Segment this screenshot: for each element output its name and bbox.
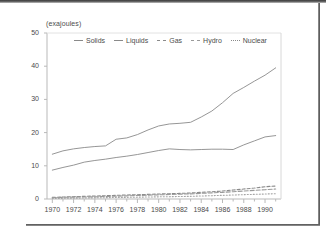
legend-line-icon	[157, 40, 166, 41]
series-line-solids	[52, 136, 275, 171]
legend-line-icon	[191, 40, 200, 41]
legend-item-label: Nuclear	[243, 37, 267, 44]
page-border-bottom	[26, 224, 320, 226]
legend-item-nuclear: Nuclear	[231, 37, 267, 44]
legend-item-solids: Solids	[74, 37, 105, 44]
legend-line-icon	[231, 40, 240, 41]
chart-figure: (exajoules) SolidsLiquidsGasHydroNuclear…	[0, 3, 318, 224]
y-axis-tick-label: 20	[23, 129, 39, 136]
page-border-right	[318, 3, 320, 225]
y-axis-tick-label: 30	[23, 95, 39, 102]
screenshot-root: (exajoules) SolidsLiquidsGasHydroNuclear…	[0, 0, 326, 232]
chart-legend: SolidsLiquidsGasHydroNuclear	[74, 37, 267, 44]
legend-line-icon	[114, 40, 123, 41]
series-line-gas	[52, 186, 275, 197]
legend-item-label: Solids	[86, 37, 105, 44]
y-axis-tick-label: 40	[23, 62, 39, 69]
legend-item-label: Liquids	[126, 37, 148, 44]
legend-item-hydro: Hydro	[191, 37, 222, 44]
y-axis-tick-label: 50	[23, 29, 39, 36]
x-axis-tick-label: 1990	[253, 206, 277, 213]
legend-item-liquids: Liquids	[114, 37, 148, 44]
legend-item-label: Hydro	[203, 37, 222, 44]
legend-item-gas: Gas	[157, 37, 182, 44]
series-line-liquids	[52, 68, 275, 154]
y-axis-tick-label: 10	[23, 162, 39, 169]
y-axis-tick-label: 0	[23, 195, 39, 202]
legend-line-icon	[74, 40, 83, 41]
y-axis-unit-label: (exajoules)	[46, 20, 81, 27]
legend-item-label: Gas	[169, 37, 182, 44]
